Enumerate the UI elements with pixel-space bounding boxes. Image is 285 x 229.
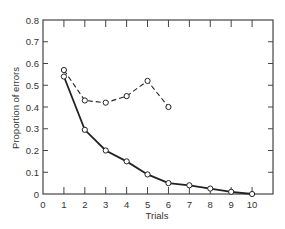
y-tick-label: 0 (34, 189, 39, 200)
x-tick-label: 1 (61, 199, 66, 210)
x-tick-label: 3 (103, 199, 108, 210)
y-tick-label: 0.3 (26, 123, 39, 134)
y-tick-label: 0.2 (26, 145, 39, 156)
data-point-marker (229, 189, 234, 194)
x-tick-label: 10 (247, 199, 258, 210)
series-solid (61, 74, 254, 197)
data-point-marker (82, 98, 87, 103)
data-point-marker (145, 78, 150, 83)
data-point-marker (82, 127, 87, 132)
y-tick-label: 0.8 (26, 15, 39, 26)
y-tick-label: 0.1 (26, 167, 39, 178)
data-point-marker (103, 100, 108, 105)
data-point-marker (166, 104, 171, 109)
x-tick-label: 8 (208, 199, 213, 210)
x-tick-label: 0 (40, 199, 45, 210)
x-tick-label: 5 (145, 199, 150, 210)
series-line-dashed (64, 70, 169, 107)
y-axis-label: Proportion of errors (10, 67, 21, 149)
y-tick-label: 0.5 (26, 80, 39, 91)
data-point-marker (208, 186, 213, 191)
y-tick-label: 0.6 (26, 58, 39, 69)
data-point-marker (166, 181, 171, 186)
x-tick-label: 9 (229, 199, 234, 210)
x-axis-ticks: 012345678910 (40, 20, 257, 210)
data-point-marker (124, 94, 129, 99)
data-point-marker (249, 191, 254, 196)
x-tick-label: 6 (166, 199, 171, 210)
y-axis-ticks: 00.10.20.30.40.50.60.70.8 (26, 15, 273, 200)
data-point-marker (187, 183, 192, 188)
x-axis-label: Trials (146, 210, 169, 221)
series-dashed (61, 67, 171, 109)
plot-frame (43, 20, 273, 194)
data-series (61, 67, 254, 196)
data-point-marker (61, 67, 66, 72)
x-tick-label: 4 (124, 199, 129, 210)
x-tick-label: 7 (187, 199, 192, 210)
data-point-marker (145, 172, 150, 177)
y-tick-label: 0.4 (26, 102, 39, 113)
data-point-marker (103, 148, 108, 153)
y-tick-label: 0.7 (26, 36, 39, 47)
plot-border (43, 20, 273, 194)
line-chart: 00.10.20.30.40.50.60.70.8 012345678910 T… (0, 0, 285, 229)
x-tick-label: 2 (82, 199, 87, 210)
data-point-marker (124, 159, 129, 164)
data-point-marker (61, 74, 66, 79)
